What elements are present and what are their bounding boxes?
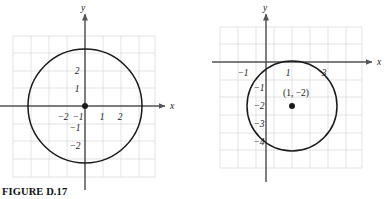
right-y-tick-label: −3 [253,119,264,129]
left-y-tick-label: −1 [69,123,80,133]
left-y-axis-label: y [80,3,86,13]
left-x-tick-label: −1 [72,112,83,122]
right-x-tick-label: −1 [237,68,248,78]
figure-caption: FIGURE D.17 [2,186,67,197]
right-y-tick-label: −2 [253,101,264,111]
left-x-tick-label: 1 [100,112,105,122]
right-center-point [289,103,295,109]
left-y-tick-label: −2 [69,141,80,151]
left-x-axis-label: x [169,101,175,111]
right-x-tick-label: 3 [321,68,327,78]
right-y-tick-label: −4 [253,137,264,147]
right-y-axis-label: y [262,3,268,13]
right-x-axis-label: x [376,57,382,67]
left-x-tick-label: −2 [57,112,68,122]
left-x-tick-label: 2 [118,112,123,122]
figure-graphics: x y −2 −1 1 2 2 1 −1 −2 [0,0,386,199]
right-x-tick-label: 1 [286,68,291,78]
figure-container: x y −2 −1 1 2 2 1 −1 −2 [0,0,386,199]
left-y-tick-label: 2 [75,66,80,76]
right-graph-panel: x y (1, −2) −1 1 3 −1 −2 −3 −4 [212,3,382,182]
right-center-point-label: (1, −2) [283,88,309,99]
left-y-tick-label: 1 [75,84,80,94]
left-graph-panel: x y −2 −1 1 2 2 1 −1 −2 [0,3,175,190]
right-y-tick-label: −1 [253,83,264,93]
left-origin-point [82,103,88,109]
